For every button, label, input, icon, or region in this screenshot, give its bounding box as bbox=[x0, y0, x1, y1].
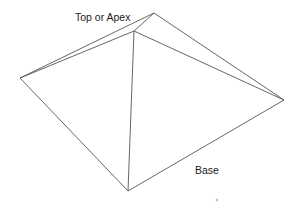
scan-speck bbox=[216, 199, 218, 201]
edge-apex-right bbox=[154, 13, 284, 100]
edge-peak-right bbox=[134, 31, 284, 100]
base-edge-bottom-right bbox=[128, 100, 284, 191]
edge-apex-peak bbox=[134, 13, 154, 31]
edge-peak-bottom bbox=[128, 31, 134, 191]
edge-peak-left bbox=[20, 31, 134, 78]
pyramid-diagram bbox=[0, 0, 300, 206]
base-label: Base bbox=[195, 164, 219, 176]
base-edge-left-bottom bbox=[20, 78, 128, 191]
apex-label: Top or Apex bbox=[75, 11, 130, 23]
